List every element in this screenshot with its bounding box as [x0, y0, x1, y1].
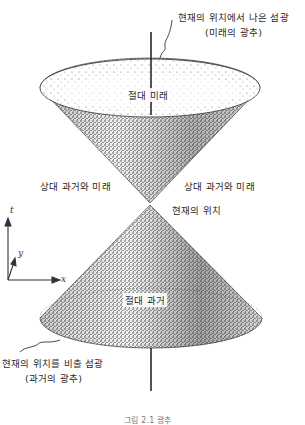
- past-flash-label: 현재의 위치를 비출 섬광: [2, 356, 104, 370]
- absolute-future-label: 절대 미래: [126, 88, 170, 102]
- relative-region-left-label: 상대 과거와 미래: [40, 179, 111, 193]
- relative-region-right-label: 상대 과거와 미래: [184, 179, 255, 193]
- axis-label-t: t: [10, 205, 14, 215]
- coordinate-axes-icon: [5, 218, 60, 283]
- future-flash-leader: [160, 20, 172, 58]
- axis-label-y: y: [18, 248, 23, 258]
- present-position-label: 현재의 위치: [172, 203, 221, 217]
- absolute-past-label: 절대 과거: [123, 293, 167, 307]
- past-light-cone-label: (과거의 광추): [25, 371, 82, 385]
- future-light-cone-label: (미래의 광추): [205, 25, 262, 39]
- axis-label-x: x: [61, 274, 66, 284]
- past-flash-leader: [20, 340, 60, 352]
- past-light-cone: [40, 205, 262, 348]
- figure-caption: 그림 2.1 광추: [124, 414, 172, 425]
- future-flash-label: 현재의 위치에서 나온 섬광: [178, 10, 289, 24]
